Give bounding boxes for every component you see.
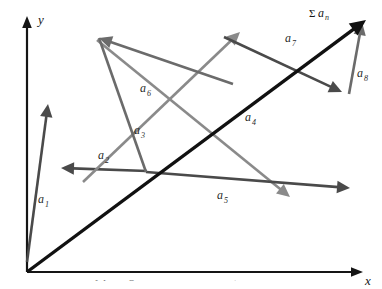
resultant-label-body: a (318, 6, 324, 20)
vector-a5 (146, 172, 350, 193)
label-a7-subscript: 7 (292, 39, 297, 48)
vector-a6-shaft-full (99, 38, 146, 172)
vector-a1 (27, 104, 52, 262)
y-axis-label: y (36, 12, 44, 27)
label-a3-body: a (134, 123, 140, 137)
vector-diagram-canvas: y x a1a2a3a4a5a6a7a8 Σ a n (0, 0, 382, 289)
vector-a6-tail-extension (99, 38, 146, 172)
vector-a5-arrowhead (337, 181, 350, 193)
label-a2-subscript: 2 (105, 156, 109, 165)
vector-a6-shaft (110, 42, 233, 84)
resultant-label-group: Σ a n (309, 6, 329, 22)
figure-root: y x a1a2a3a4a5a6a7a8 Σ a n A vector adde… (0, 0, 382, 289)
label-a5: a5 (217, 188, 228, 205)
label-a2-body: a (98, 148, 104, 162)
resultant-vector-group (27, 20, 366, 272)
label-a5-subscript: 5 (224, 196, 228, 205)
label-a1-subscript: 1 (45, 200, 49, 209)
resultant-label-subscript: n (325, 13, 329, 22)
vector-a7-shaft (224, 37, 332, 87)
vector-a5-shaft (146, 172, 339, 187)
figure-caption: A vector added by placing each vector he… (24, 280, 311, 281)
label-a4-body: a (245, 110, 251, 124)
label-a8: a8 (357, 66, 368, 83)
vector-a2-shaft (72, 168, 147, 171)
label-a4: a4 (245, 110, 256, 127)
caption-strip: A vector added by placing each vector he… (0, 280, 382, 289)
label-a1-body: a (38, 192, 44, 206)
label-a1: a1 (38, 192, 49, 209)
vector-a2-arrowhead (61, 162, 74, 174)
label-a4-subscript: 4 (252, 118, 256, 127)
label-a6-body: a (140, 81, 146, 95)
vector-labels-group: a1a2a3a4a5a6a7a8 (38, 31, 368, 209)
sigma-symbol: Σ (309, 7, 315, 19)
label-a5-body: a (217, 188, 223, 202)
label-a7-body: a (285, 31, 291, 45)
label-a7: a7 (285, 31, 297, 48)
vector-a2 (61, 162, 147, 174)
vector-a6 (99, 36, 233, 84)
vector-a1-arrowhead (40, 104, 52, 118)
vector-a1-shaft (27, 115, 46, 262)
vector-a8-shaft (349, 33, 360, 94)
y-axis-arrowhead (22, 16, 32, 28)
label-a8-subscript: 8 (364, 74, 368, 83)
x-axis-arrowhead (351, 267, 363, 277)
label-a8-body: a (357, 66, 363, 80)
resultant-shaft (27, 29, 354, 272)
label-a6-subscript: 6 (147, 89, 151, 98)
vector-a7 (224, 37, 342, 92)
label-a3-subscript: 3 (140, 131, 145, 140)
